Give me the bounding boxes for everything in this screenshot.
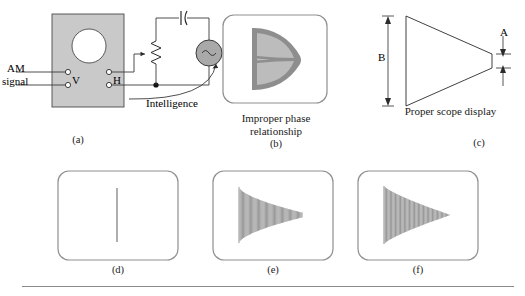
panel-d-scope — [57, 170, 180, 262]
dim-b-arrow-top — [385, 16, 391, 24]
label-am: AM — [7, 62, 25, 74]
label-intelligence: Intelligence — [146, 97, 198, 109]
panel-letter-c: (c) — [459, 137, 499, 148]
panel-letter-f: (f) — [398, 264, 438, 275]
terminal-v-bottom — [65, 82, 70, 87]
potentiometer-icon — [151, 41, 161, 64]
panel-c-trapezoid — [370, 6, 515, 116]
terminal-h-top — [106, 69, 111, 74]
trapezoid-outline — [406, 16, 492, 106]
footer-rule — [22, 286, 514, 287]
wiper-arrow-icon — [141, 52, 146, 56]
panel-e-scope — [212, 170, 335, 262]
capacitor-plate-right — [185, 11, 187, 25]
panel-b-caption: Improper phase relationship — [212, 112, 340, 138]
label-dim-a: A — [500, 26, 508, 38]
scope-bezel-d — [58, 171, 178, 260]
figure-canvas: AM signal V H Intelligence (a) Improper … — [0, 0, 525, 296]
panel-letter-a: (a) — [58, 134, 98, 145]
panel-letter-b: (b) — [256, 138, 296, 149]
chassis-hole — [72, 29, 106, 63]
panel-f-scope — [357, 170, 480, 262]
intelligence-leader-line — [129, 64, 216, 99]
terminal-h-bottom — [106, 82, 111, 87]
dim-a-arrow-down — [500, 49, 506, 57]
label-terminal-v: V — [72, 74, 80, 86]
dim-a-arrow-up — [500, 65, 506, 73]
label-terminal-h: H — [113, 74, 121, 86]
label-signal: signal — [2, 75, 28, 87]
panel-b-scope — [222, 14, 330, 110]
panel-letter-e: (e) — [253, 264, 293, 275]
panel-letter-d: (d) — [98, 264, 138, 275]
panel-c-caption: Proper scope display — [383, 105, 518, 118]
terminal-v-top — [65, 69, 70, 74]
label-dim-b: B — [378, 51, 385, 63]
